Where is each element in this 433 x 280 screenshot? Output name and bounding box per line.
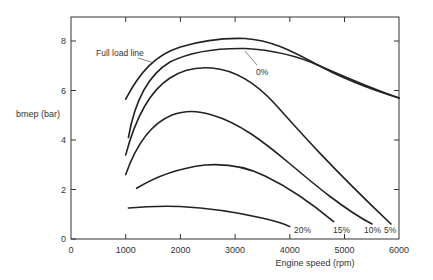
- y-tick-2: 2: [61, 185, 66, 195]
- y-axis-ticks: [71, 41, 399, 239]
- label-5-percent: 5%: [384, 225, 397, 235]
- curve-5-percent: [126, 68, 391, 224]
- label-full-load-line: Full load line: [96, 48, 144, 58]
- x-tick-2000: 2000: [170, 245, 190, 255]
- x-tick-0: 0: [68, 245, 73, 255]
- x-tick-1000: 1000: [116, 245, 136, 255]
- label-10-percent: 10%: [364, 225, 381, 235]
- label-15-percent: 15%: [333, 225, 350, 235]
- label-0-percent: 0%: [256, 67, 269, 77]
- y-tick-6: 6: [61, 86, 66, 96]
- curve-20-percent: [128, 206, 289, 226]
- x-axis-title: Engine speed (rpm): [275, 258, 354, 268]
- y-tick-8: 8: [61, 36, 66, 46]
- chart: 0 2 4 6 8 0 1000 2000 3000 4000 5000 600…: [0, 0, 433, 280]
- x-tick-4000: 4000: [280, 245, 300, 255]
- x-tick-3000: 3000: [225, 245, 245, 255]
- x-tick-5000: 5000: [334, 245, 354, 255]
- leader-0-percent: [245, 51, 257, 65]
- label-20-percent: 20%: [294, 225, 311, 235]
- y-axis-title: bmep (bar): [16, 109, 60, 119]
- leader-full-load: [138, 58, 154, 63]
- y-tick-4: 4: [61, 135, 66, 145]
- y-tick-0: 0: [61, 234, 66, 244]
- x-tick-6000: 6000: [389, 245, 409, 255]
